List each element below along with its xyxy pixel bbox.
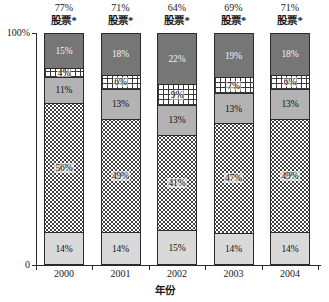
x-axis-line xyxy=(36,265,321,266)
bar-segment-label: 13% xyxy=(168,115,185,125)
annotation-label: 股票* xyxy=(262,14,318,27)
bar-column-2001[interactable]: 18%6%13%49%14% xyxy=(93,33,149,265)
annotation-percent: 71% xyxy=(262,1,318,14)
bar-segment-light[interactable]: 14% xyxy=(270,232,310,264)
bar-stack: 19%7%13%47%14% xyxy=(214,33,254,265)
bar-column-2003[interactable]: 19%7%13%47%14% xyxy=(206,33,262,265)
bar-segment-dot[interactable]: 49% xyxy=(270,119,310,233)
bar-segment-label: 22% xyxy=(168,54,185,64)
bar-segment-label: 56% xyxy=(54,163,73,173)
bar-segment-label: 49% xyxy=(280,171,299,181)
y-axis-tick-label-0: 0 xyxy=(14,259,30,270)
bar-stack: 22%9%13%41%15% xyxy=(157,33,197,265)
bar-segment-dot[interactable]: 56% xyxy=(44,103,84,233)
bar-stack: 15%4%11%56%14% xyxy=(44,33,84,265)
bar-segment-dark[interactable]: 15% xyxy=(44,33,84,68)
bar-segment-grid[interactable]: 9% xyxy=(157,84,197,105)
bar-segment-label: 41% xyxy=(167,178,186,188)
bar-column-2002[interactable]: 22%9%13%41%15% xyxy=(149,33,205,265)
top-annotation-2004: 71% 股票* xyxy=(262,1,318,27)
bar-segment-label: 4% xyxy=(57,68,71,77)
bar-column-2004[interactable]: 18%6%13%49%14% xyxy=(262,33,318,265)
annotation-label: 股票* xyxy=(149,14,205,27)
category-label-2000: 2000 xyxy=(36,268,92,280)
bar-segment-label: 13% xyxy=(225,104,242,114)
bar-segment-light[interactable]: 14% xyxy=(101,232,141,264)
bar-group: 15%4%11%56%14%18%6%13%49%14%22%9%13%41%1… xyxy=(36,33,318,265)
bar-segment-label: 14% xyxy=(112,244,129,254)
bar-segment-light[interactable]: 14% xyxy=(214,233,254,265)
top-annotations: 77% 股票* 71% 股票* 64% 股票* 69% 股票* 71% 股票* xyxy=(36,1,318,27)
bar-segment-label: 6% xyxy=(113,77,127,87)
category-label-2003: 2003 xyxy=(206,268,262,280)
bar-segment-light[interactable]: 15% xyxy=(157,230,197,265)
chart-root: 77% 股票* 71% 股票* 64% 股票* 69% 股票* 71% 股票* … xyxy=(0,0,329,302)
bar-segment-label: 18% xyxy=(281,49,298,59)
annotation-label: 股票* xyxy=(93,14,149,27)
bar-segment-label: 18% xyxy=(112,49,129,59)
bar-segment-light[interactable]: 14% xyxy=(44,232,84,264)
bar-segment-dot[interactable]: 49% xyxy=(101,119,141,233)
annotation-percent: 71% xyxy=(93,1,149,14)
x-axis-tick xyxy=(318,265,319,270)
bar-segment-mid[interactable]: 13% xyxy=(101,89,141,119)
bar-segment-label: 14% xyxy=(281,244,298,254)
bar-segment-label: 47% xyxy=(224,173,243,183)
bar-segment-dark[interactable]: 22% xyxy=(157,33,197,84)
bar-segment-mid[interactable]: 11% xyxy=(44,77,84,103)
bar-segment-grid[interactable]: 4% xyxy=(44,68,84,77)
x-axis-title: 年份 xyxy=(0,282,329,297)
bar-column-2000[interactable]: 15%4%11%56%14% xyxy=(36,33,92,265)
bar-segment-label: 14% xyxy=(55,244,72,254)
annotation-percent: 64% xyxy=(149,1,205,14)
bar-segment-label: 13% xyxy=(281,99,298,109)
top-annotation-2000: 77% 股票* xyxy=(36,1,92,27)
bar-segment-label: 9% xyxy=(170,90,184,100)
bar-segment-label: 6% xyxy=(283,77,297,87)
bar-segment-label: 7% xyxy=(226,81,240,91)
bar-segment-label: 49% xyxy=(111,171,130,181)
top-annotation-2002: 64% 股票* xyxy=(149,1,205,27)
annotation-label: 股票* xyxy=(36,14,92,27)
bar-segment-label: 11% xyxy=(56,85,73,95)
x-axis-category-labels: 2000 2001 2002 2003 2004 xyxy=(36,268,318,280)
annotation-percent: 77% xyxy=(36,1,92,14)
bar-segment-label: 15% xyxy=(168,243,185,253)
y-axis-tick-label-100: 100% xyxy=(0,27,30,38)
bar-stack: 18%6%13%49%14% xyxy=(101,33,141,265)
bar-segment-grid[interactable]: 7% xyxy=(214,77,254,93)
bar-segment-label: 19% xyxy=(225,51,242,61)
bar-segment-dot[interactable]: 41% xyxy=(157,135,197,230)
category-label-2001: 2001 xyxy=(93,268,149,280)
annotation-label: 股票* xyxy=(206,14,262,27)
bar-segment-label: 13% xyxy=(112,99,129,109)
bar-segment-dark[interactable]: 18% xyxy=(101,33,141,75)
top-annotation-2003: 69% 股票* xyxy=(206,1,262,27)
category-label-2002: 2002 xyxy=(149,268,205,280)
bar-segment-label: 14% xyxy=(225,244,242,254)
bar-segment-dark[interactable]: 19% xyxy=(214,33,254,77)
annotation-percent: 69% xyxy=(206,1,262,14)
bar-segment-dot[interactable]: 47% xyxy=(214,123,254,232)
bar-segment-dark[interactable]: 18% xyxy=(270,33,310,75)
bar-segment-grid[interactable]: 6% xyxy=(101,75,141,89)
category-label-2004: 2004 xyxy=(262,268,318,280)
bar-segment-label: 15% xyxy=(55,46,72,56)
bar-segment-mid[interactable]: 13% xyxy=(214,93,254,123)
bar-segment-mid[interactable]: 13% xyxy=(157,105,197,135)
bar-segment-grid[interactable]: 6% xyxy=(270,75,310,89)
bar-segment-mid[interactable]: 13% xyxy=(270,89,310,119)
top-annotation-2001: 71% 股票* xyxy=(93,1,149,27)
bar-stack: 18%6%13%49%14% xyxy=(270,33,310,265)
